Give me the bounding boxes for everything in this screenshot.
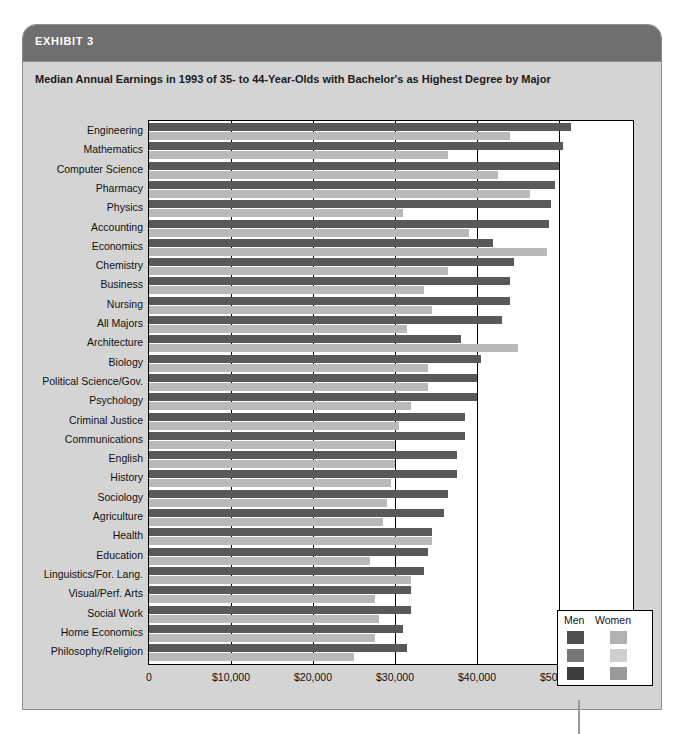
bar-women [149,151,448,159]
bar-men [149,644,407,652]
bar-men [149,451,457,459]
bar-women [149,499,387,507]
bar-women [149,190,530,198]
category-label: Health [23,529,143,541]
bar-women [149,653,354,661]
category-label: Psychology [23,394,143,406]
category-label: Agriculture [23,510,143,522]
bar-men [149,509,444,517]
category-label: Accounting [23,221,143,233]
category-label: Chemistry [23,259,143,271]
bar-women [149,518,383,526]
legend-swatch-women-2 [610,649,627,662]
category-label: Social Work [23,607,143,619]
bar-men [149,142,563,150]
bar-women [149,248,547,256]
chart-legend: Men Women [557,610,653,686]
value-tick-label: $20,000 [294,671,332,683]
value-tick-label: $30,000 [376,671,414,683]
category-label: Business [23,278,143,290]
category-label: English [23,452,143,464]
exhibit-label: EXHIBIT 3 [35,35,94,47]
bar-men [149,297,510,305]
bar-women [149,306,432,314]
value-tick-label: 0 [146,671,152,683]
bar-men [149,200,551,208]
category-label: History [23,471,143,483]
category-label: Mathematics [23,143,143,155]
bar-women [149,595,375,603]
bar-men [149,162,559,170]
bar-men [149,606,411,614]
bar-women [149,364,428,372]
category-label: Physics [23,201,143,213]
value-tick-label: $10,000 [212,671,250,683]
bar-men [149,335,461,343]
bar-women [149,325,407,333]
bar-men [149,490,448,498]
bar-women [149,229,469,237]
bar-women [149,132,510,140]
value-tick-label: $40,000 [458,671,496,683]
category-label: Criminal Justice [23,414,143,426]
legend-women-label: Women [595,614,631,626]
category-label: Biology [23,356,143,368]
category-label: Political Science/Gov. [23,375,143,387]
bar-women [149,344,518,352]
category-label: Home Economics [23,626,143,638]
bar-women [149,422,399,430]
bar-men [149,239,493,247]
bar-women [149,557,370,565]
category-label: Engineering [23,124,143,136]
legend-swatch-men-2 [567,649,584,662]
bar-men [149,586,411,594]
bar-women [149,615,379,623]
legend-swatch-men-3 [567,667,584,680]
bar-women [149,441,395,449]
bar-men [149,528,432,536]
bar-men [149,220,549,228]
bar-women [149,267,448,275]
legend-swatch-men-1 [567,631,584,644]
bar-men [149,316,502,324]
bar-women [149,171,498,179]
gridline [559,121,560,664]
exhibit-panel: EXHIBIT 3 Median Annual Earnings in 1993… [22,24,662,710]
bar-men [149,123,571,131]
category-label: Sociology [23,491,143,503]
bar-women [149,634,375,642]
bar-women [149,576,411,584]
bar-men [149,181,555,189]
bar-men [149,277,510,285]
exhibit-header-band: EXHIBIT 3 [23,25,661,61]
bar-women [149,209,403,217]
bar-men [149,258,514,266]
category-label: Architecture [23,336,143,348]
bar-men [149,413,465,421]
bar-women [149,460,395,468]
bar-women [149,537,432,545]
bar-men [149,625,403,633]
bar-men [149,470,457,478]
category-label: Education [23,549,143,561]
page-edge-mark [578,700,580,734]
category-label: Linguistics/For. Lang. [23,568,143,580]
category-label: All Majors [23,317,143,329]
bar-women [149,402,411,410]
category-label: Pharmacy [23,182,143,194]
category-label: Communications [23,433,143,445]
exhibit-subtitle-band: Median Annual Earnings in 1993 of 35- to… [23,61,661,99]
bar-women [149,479,391,487]
category-label: Visual/Perf. Arts [23,587,143,599]
chart-title: Median Annual Earnings in 1993 of 35- to… [35,73,551,85]
legend-men-label: Men [564,614,584,626]
bar-women [149,383,428,391]
bar-women [149,286,424,294]
bar-men [149,355,481,363]
bar-men [149,567,424,575]
chart-area: EngineeringMathematicsComputer SciencePh… [23,98,661,710]
bar-men [149,374,477,382]
category-label: Computer Science [23,163,143,175]
category-label: Philosophy/Religion [23,645,143,657]
bar-men [149,432,465,440]
